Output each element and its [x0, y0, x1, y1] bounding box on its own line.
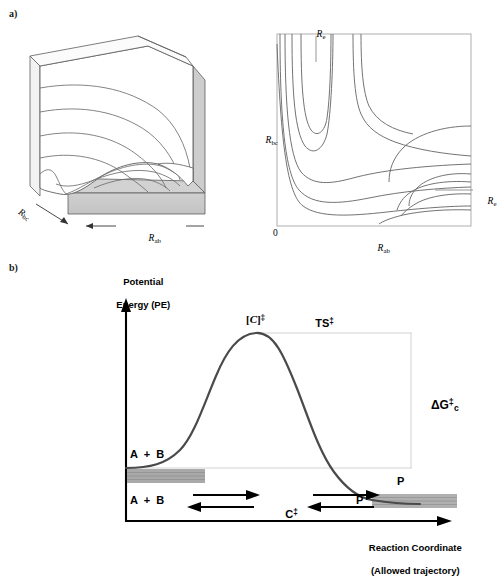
- reactant-level-label: A + B: [130, 449, 164, 461]
- product-level-label: P: [397, 476, 404, 488]
- scheme-reactants-label: A + B: [130, 495, 164, 507]
- scheme-product-label: P: [356, 495, 363, 507]
- contour-rab-label: Rab: [367, 230, 390, 267]
- contour-rbc-label: Rbc: [255, 122, 278, 159]
- arrow-reverse-right-head: [307, 502, 321, 512]
- surface-left-face: [30, 56, 40, 196]
- x-axis-label: Reaction Coordinate (Allowed trajectory): [320, 530, 499, 580]
- reaction-coordinate-energy-diagram: Potential Energy (PE) [C]‡ TS‡ ΔG‡c A + …: [60, 264, 499, 562]
- transition-state-label: TS‡: [303, 304, 334, 341]
- surface-3d-svg: [8, 18, 240, 248]
- surface-rab-label: Rab: [138, 220, 161, 257]
- surface-base-front: [68, 193, 205, 214]
- contour-re-right-label: Re: [477, 183, 496, 220]
- surface-main-body: [40, 46, 193, 194]
- x-axis-arrowhead: [437, 516, 452, 526]
- reactant-level-bar: [127, 469, 205, 483]
- potential-energy-contour-map: Re Re Rbc Rab 0: [255, 14, 495, 254]
- contour-map-svg: [255, 14, 495, 254]
- surface-axis-rbc: [36, 204, 68, 224]
- delta-g-label: ΔG‡c: [418, 385, 459, 425]
- scheme-complex-label: C‡: [273, 495, 298, 532]
- potential-energy-surface-3d: Rbc Rab: [8, 18, 240, 248]
- equilibrium-arrows-right: [313, 495, 374, 507]
- contour-re-top-label: Re: [306, 16, 325, 53]
- contour-origin-label: 0: [273, 228, 278, 240]
- arrow-reverse-left-head: [187, 502, 201, 512]
- panel-b-label: b): [9, 262, 18, 273]
- y-axis-label: Potential Energy (PE): [88, 264, 188, 322]
- equilibrium-arrows-left: [193, 495, 254, 507]
- activated-complex-label: [C]‡: [235, 300, 265, 337]
- arrow-forward-left-head: [246, 490, 260, 500]
- surface-right-face: [193, 66, 205, 193]
